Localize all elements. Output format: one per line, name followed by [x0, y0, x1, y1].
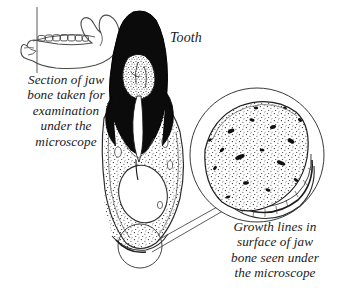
- mandible-ramus-line: [100, 33, 102, 46]
- caption-growth-lines: Growth lines in surface of jaw bone seen…: [210, 219, 340, 281]
- caption-jaw-section: Section of jaw bone taken for examinatio…: [2, 72, 130, 149]
- mandible-body: [21, 15, 120, 68]
- caption-tooth: Tooth: [170, 30, 260, 45]
- mandible-outline: [21, 7, 120, 73]
- magnified-inset: [190, 88, 324, 222]
